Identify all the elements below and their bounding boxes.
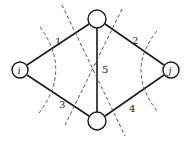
node-i-label: i (18, 65, 21, 76)
edge-1-label: 1 (55, 36, 61, 47)
edge-3-label: 3 (59, 99, 65, 110)
cut-around-i (39, 27, 56, 113)
edge-5-label: 5 (102, 64, 108, 75)
node-top (88, 10, 106, 28)
cut-around-j (141, 31, 157, 111)
network-diagram: i j 1 2 3 4 5 (0, 0, 188, 147)
edge-2-label: 2 (132, 35, 138, 46)
node-bottom (88, 112, 106, 130)
edge-4-label: 4 (129, 103, 135, 114)
